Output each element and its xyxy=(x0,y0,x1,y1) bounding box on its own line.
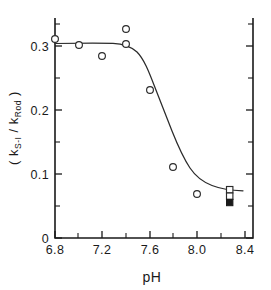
y-label-den-sub: Rod xyxy=(13,100,23,117)
right-axis-ticks xyxy=(246,24,253,238)
data-point xyxy=(227,199,233,205)
y-label-num-base: k xyxy=(6,149,21,156)
y-tick-label: 0.1 xyxy=(30,168,49,182)
y-label-num-sub: S-I xyxy=(13,137,23,149)
data-point xyxy=(99,53,106,60)
data-point xyxy=(147,87,154,94)
data-point xyxy=(227,187,233,193)
data-point xyxy=(194,191,201,198)
axis-frame xyxy=(55,18,253,238)
x-major-ticks xyxy=(55,231,245,238)
data-point xyxy=(170,164,177,171)
y-tick-label: 0.2 xyxy=(30,104,49,118)
data-point xyxy=(123,41,130,48)
x-tick-label: 7.2 xyxy=(93,243,112,257)
data-point xyxy=(76,42,83,49)
svg-text:( kS-I / kRod ): ( kS-I / kRod ) xyxy=(6,91,23,165)
x-axis-title: pH xyxy=(142,269,161,285)
sigmoid-scatter-plot: 6.8 7.2 7.6 8.0 8.4 0 0.1 0.2 0.3 pH ( k… xyxy=(0,0,271,290)
x-tick-label: 7.6 xyxy=(141,243,160,257)
y-tick-label: 0.3 xyxy=(30,40,49,54)
y-tick-label: 0 xyxy=(42,232,49,246)
x-tick-label: 8.0 xyxy=(188,243,207,257)
chart-figure: 6.8 7.2 7.6 8.0 8.4 0 0.1 0.2 0.3 pH ( k… xyxy=(0,0,271,290)
x-tick-label: 8.4 xyxy=(236,243,255,257)
y-label-close-paren: ) xyxy=(6,91,21,96)
data-points-cluster xyxy=(227,187,233,206)
data-point xyxy=(52,36,59,43)
y-tick-labels: 0 0.1 0.2 0.3 xyxy=(30,40,49,246)
data-point xyxy=(227,193,233,199)
y-label-den-base: k xyxy=(6,117,21,124)
data-point xyxy=(123,26,130,33)
fit-curve xyxy=(55,43,243,191)
y-axis-title: ( kS-I / kRod ) xyxy=(6,91,23,165)
x-tick-labels: 6.8 7.2 7.6 8.0 8.4 xyxy=(46,243,255,257)
data-points-open-circles xyxy=(52,26,201,198)
